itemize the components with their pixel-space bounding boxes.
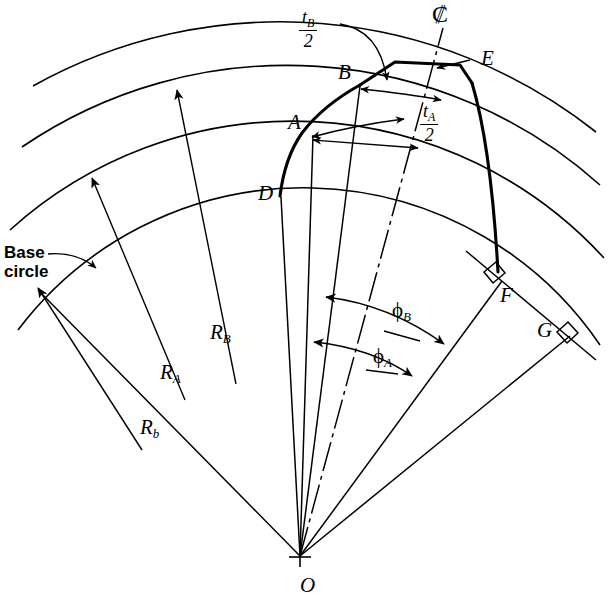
leader-line-phiB xyxy=(384,331,420,341)
angle-label-phiA: ϕA xyxy=(373,346,392,369)
thickness-numerator-subscript-tA: A xyxy=(428,110,435,124)
radius-symbol-RB: R xyxy=(210,320,223,344)
radial-line-through-D xyxy=(281,197,300,556)
radius-subscript-RB: B xyxy=(223,331,231,346)
leader-line-phiA xyxy=(366,370,398,374)
angle-subscript-phiB: B xyxy=(403,309,411,324)
right-angle-marker-F xyxy=(484,262,505,283)
thickness-label-tA: tA 2 xyxy=(420,102,438,144)
point-label-E: E xyxy=(481,48,494,69)
right-angle-marker-G xyxy=(557,322,578,343)
point-label-D: D xyxy=(258,183,273,204)
point-label-F: F xyxy=(500,285,513,306)
dimension-arrow-Rb xyxy=(38,288,142,450)
point-label-B: B xyxy=(338,62,351,83)
angle-symbol-phiB: ϕ xyxy=(392,298,403,322)
involute-flank-right xyxy=(472,83,498,272)
dimension-arc-phiA xyxy=(314,342,412,376)
arc-radius-RA xyxy=(10,121,604,258)
base-circle-leader-arrow xyxy=(48,254,96,268)
radius-label-RA: RA xyxy=(160,362,181,385)
arc-radius-RB xyxy=(22,65,600,185)
line-of-action xyxy=(466,251,596,360)
radius-label-Rb: Rb xyxy=(140,417,159,440)
dimension-arc-tB xyxy=(361,89,441,100)
radius-symbol-Rb: R xyxy=(140,415,153,439)
angle-symbol-phiA: ϕ xyxy=(373,344,384,368)
point-label-O: O xyxy=(300,575,315,596)
figure-canvas: B A D E F G O Base circle RB RA Rb ϕB ϕA… xyxy=(0,0,610,614)
radial-line-left-outer xyxy=(38,290,300,556)
centerline-glyph: ₡ xyxy=(432,1,448,27)
angle-label-phiB: ϕB xyxy=(392,300,411,323)
base-circle-note-line2: circle xyxy=(4,262,48,281)
dimension-arc-phiB xyxy=(326,297,444,344)
dimension-arc-tA-lower xyxy=(313,140,418,148)
tooth-top-land xyxy=(360,62,472,85)
point-label-A: A xyxy=(288,112,301,133)
radius-subscript-RA: A xyxy=(173,371,181,386)
thickness-denominator-tA: 2 xyxy=(420,125,438,144)
radial-line-through-A xyxy=(300,135,313,556)
angle-subscript-phiA: A xyxy=(384,355,392,370)
thickness-denominator-tB: 2 xyxy=(299,31,317,50)
point-label-G: G xyxy=(537,320,552,341)
radius-subscript-Rb: b xyxy=(153,426,160,441)
base-circle-note: Base circle xyxy=(4,243,48,281)
radial-line-through-G xyxy=(300,336,570,556)
gear-tooth-drawing xyxy=(0,0,610,614)
radius-symbol-RA: R xyxy=(160,360,173,384)
radius-label-RB: RB xyxy=(210,322,231,345)
thickness-label-tB: tB 2 xyxy=(299,8,317,50)
thickness-numerator-subscript-tB: B xyxy=(307,16,314,30)
centerline-symbol: ₡ xyxy=(432,2,454,30)
base-circle-note-line1: Base xyxy=(4,243,45,262)
